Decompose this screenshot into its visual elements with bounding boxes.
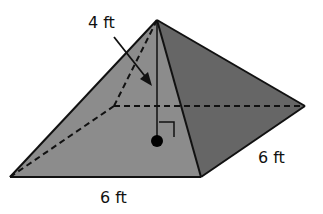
base-center-dot: [151, 135, 163, 147]
base-front-label: 6 ft: [100, 188, 127, 207]
base-side-label: 6 ft: [258, 148, 285, 167]
height-label: 4 ft: [88, 13, 115, 32]
pyramid-diagram: 4 ft 6 ft 6 ft: [0, 0, 323, 214]
